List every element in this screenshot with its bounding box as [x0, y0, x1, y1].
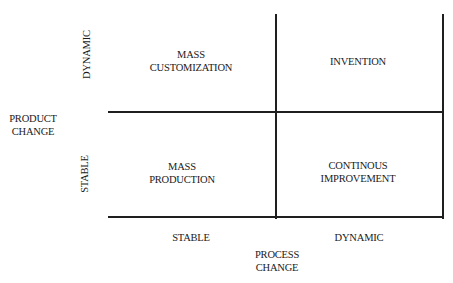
quadrant-invention: INVENTION [308, 55, 408, 68]
quadrant-label-line: IMPROVEMENT [308, 172, 408, 185]
quadrant-label-line: MASS [141, 48, 241, 61]
x-axis-title-line1: PROCESS [242, 248, 312, 261]
quadrant-label-line: INVENTION [308, 55, 408, 68]
quadrant-label-line: CONTINOUS [308, 159, 408, 172]
quadrant-mass-production: MASS PRODUCTION [132, 160, 232, 186]
x-level-stable: STABLE [151, 231, 231, 244]
quadrant-continuous-improvement: CONTINOUS IMPROVEMENT [308, 159, 408, 185]
x-level-dynamic: DYNAMIC [319, 231, 399, 244]
quadrant-mass-customization: MASS CUSTOMIZATION [141, 48, 241, 74]
center-horizontal-divider [108, 111, 444, 113]
y-level-stable: STABLE [79, 150, 91, 198]
y-level-dynamic: DYNAMIC [81, 31, 93, 79]
bottom-axis-line [108, 216, 444, 218]
x-axis-title: PROCESS CHANGE [242, 248, 312, 274]
quadrant-label-line: PRODUCTION [132, 173, 232, 186]
quadrant-label-line: CUSTOMIZATION [141, 61, 241, 74]
center-vertical-divider [275, 14, 277, 219]
y-axis-title-line2: CHANGE [4, 125, 62, 138]
y-axis-title: PRODUCT CHANGE [4, 112, 62, 138]
right-border-line [442, 14, 444, 219]
quadrant-label-line: MASS [132, 160, 232, 173]
y-axis-title-line1: PRODUCT [4, 112, 62, 125]
x-axis-title-line2: CHANGE [242, 261, 312, 274]
